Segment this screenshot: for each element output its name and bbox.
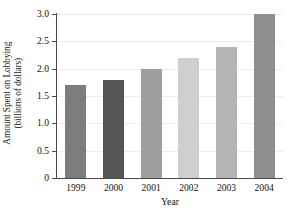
y-tick-label: 1.5 bbox=[37, 91, 49, 101]
x-axis-title: Year bbox=[57, 196, 283, 207]
bar-chart: Amount Spent on Lobbying (billions of do… bbox=[0, 0, 288, 214]
bar bbox=[141, 69, 162, 178]
x-tick-label: 2002 bbox=[170, 182, 208, 193]
plot-area bbox=[57, 14, 283, 178]
y-tick-label: 3.0 bbox=[37, 9, 49, 19]
y-tick-label: 2.0 bbox=[37, 64, 49, 74]
bar bbox=[65, 85, 86, 178]
bar bbox=[103, 80, 124, 178]
x-tick-label: 2001 bbox=[132, 182, 170, 193]
y-tick-label: 0.5 bbox=[37, 146, 49, 156]
bar bbox=[178, 58, 199, 178]
x-tick-label: 2004 bbox=[245, 182, 283, 193]
bar bbox=[216, 47, 237, 178]
y-axis-title-line-1: Amount Spent on Lobbying bbox=[2, 42, 13, 145]
x-tick-label: 2003 bbox=[208, 182, 246, 193]
x-axis-line bbox=[56, 178, 283, 179]
x-tick-label: 2000 bbox=[95, 182, 133, 193]
bar bbox=[254, 14, 275, 178]
y-axis-title: Amount Spent on Lobbying (billions of do… bbox=[0, 0, 26, 186]
y-tick-label: 2.5 bbox=[37, 36, 49, 46]
y-axis-title-line-2: (billions of dollars) bbox=[13, 42, 24, 145]
y-tick-label: 1.0 bbox=[37, 118, 49, 128]
y-tick-label: 0 bbox=[44, 173, 49, 183]
x-tick-label: 1999 bbox=[57, 182, 95, 193]
